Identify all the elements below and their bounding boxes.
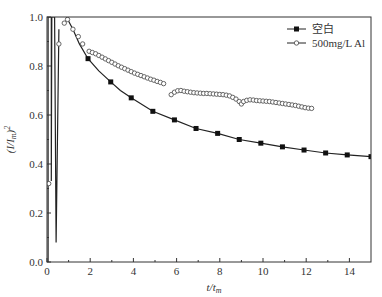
- series-layer: [47, 17, 374, 262]
- data-point: [280, 144, 285, 149]
- x-axis-label: t/tm: [207, 281, 222, 295]
- legend-square-marker-icon: [294, 27, 299, 32]
- data-point: [345, 152, 350, 157]
- chart-container: 024681012140.00.20.40.60.81.0 (I/Im)2 t/…: [0, 0, 382, 297]
- plot-area: [47, 17, 374, 262]
- legend-item: 500mg/L Al: [287, 37, 365, 49]
- legend: 空白500mg/L Al: [287, 22, 365, 49]
- y-axis-label: (I/Im)2: [3, 126, 18, 154]
- data-point: [62, 21, 66, 25]
- data-point: [172, 117, 177, 122]
- data-point: [194, 126, 199, 131]
- legend-item: 空白: [287, 22, 334, 35]
- data-point: [57, 42, 61, 46]
- data-point: [161, 81, 165, 85]
- data-point: [150, 109, 155, 114]
- x-tick-label: 4: [131, 265, 137, 277]
- data-point: [215, 131, 220, 136]
- data-point: [258, 141, 263, 146]
- data-point: [309, 106, 313, 110]
- data-point: [71, 27, 75, 31]
- x-tick-label: 8: [217, 265, 223, 277]
- axes-layer: 024681012140.00.20.40.60.81.0: [29, 11, 355, 277]
- data-point: [129, 95, 134, 100]
- data-point: [108, 79, 113, 84]
- x-tick-label: 0: [44, 265, 50, 277]
- y-tick-label: 1.0: [29, 11, 43, 23]
- y-tick-label: 0.6: [29, 109, 43, 121]
- x-tick-label: 6: [174, 265, 180, 277]
- y-tick-label: 0.8: [29, 60, 43, 72]
- x-tick-label: 2: [87, 265, 93, 277]
- data-point: [76, 34, 80, 38]
- y-tick-label: 0.2: [29, 207, 43, 219]
- legend-label: 500mg/L Al: [312, 37, 365, 49]
- y-tick-label: 0.4: [29, 158, 43, 170]
- data-point: [80, 42, 84, 46]
- transient-line: [48, 17, 59, 262]
- data-point: [65, 17, 69, 21]
- line-chart: 024681012140.00.20.40.60.81.0 (I/Im)2 t/…: [0, 0, 382, 297]
- data-point: [86, 56, 91, 61]
- x-tick-label: 14: [344, 265, 356, 277]
- series-al-500: [47, 17, 314, 186]
- x-tick-label: 10: [258, 265, 270, 277]
- legend-circle-marker-icon: [294, 41, 298, 45]
- x-tick-label: 12: [301, 265, 312, 277]
- y-tick-label: 0.0: [29, 256, 43, 268]
- data-point: [323, 150, 328, 155]
- legend-label: 空白: [312, 22, 334, 35]
- data-point: [302, 148, 307, 153]
- data-point: [237, 137, 242, 142]
